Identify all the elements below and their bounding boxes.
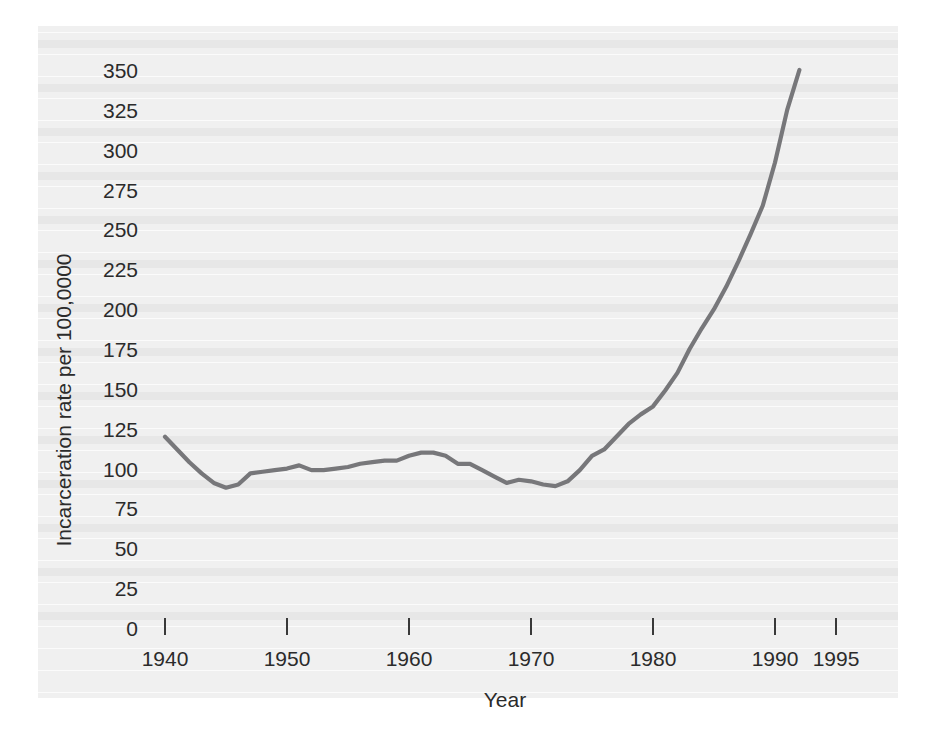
data-line-incarceration-rate bbox=[165, 70, 799, 488]
plot-area bbox=[0, 0, 930, 735]
chart-figure: 0255075100125150175200225250275300325350… bbox=[0, 0, 930, 735]
